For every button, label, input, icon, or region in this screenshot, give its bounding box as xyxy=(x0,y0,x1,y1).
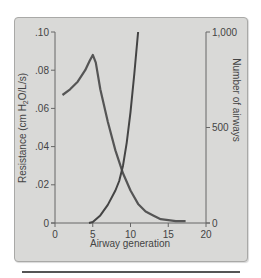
resistance-curve xyxy=(63,55,186,221)
y-tick-label: .10 xyxy=(35,27,49,38)
bottom-rule xyxy=(22,271,240,273)
y2-axis-title: Number of airways xyxy=(231,58,242,141)
y2-tick-label: 1,000 xyxy=(212,27,237,38)
x-axis-title: Airway generation xyxy=(90,238,170,249)
x-tick-label: 20 xyxy=(200,229,212,240)
y-axis-title: Resistance (cm H2O/L/s) xyxy=(17,73,29,183)
x-tick-label: 0 xyxy=(52,229,58,240)
y-tick-label: .02 xyxy=(35,179,49,190)
line-chart: 051015200.02.04.06.08.1005001,000 Airway… xyxy=(0,0,261,278)
y-tick-label: .04 xyxy=(35,141,49,152)
airway-count-curve xyxy=(89,32,138,223)
axes xyxy=(51,32,210,223)
y-tick-label: .06 xyxy=(35,103,49,114)
y2-tick-label: 500 xyxy=(212,122,229,133)
y2-tick-label: 0 xyxy=(212,218,218,229)
y-tick-label: .08 xyxy=(35,65,49,76)
y-tick-label: 0 xyxy=(43,218,49,229)
